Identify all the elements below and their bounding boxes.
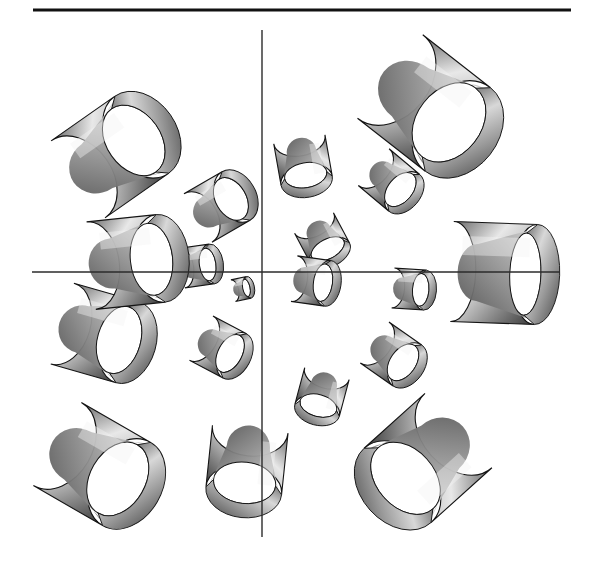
- figure-canvas: [0, 0, 600, 575]
- tube-highlight: [462, 236, 530, 257]
- tube-glyph: [450, 222, 561, 326]
- tube-field-plot: [0, 0, 600, 575]
